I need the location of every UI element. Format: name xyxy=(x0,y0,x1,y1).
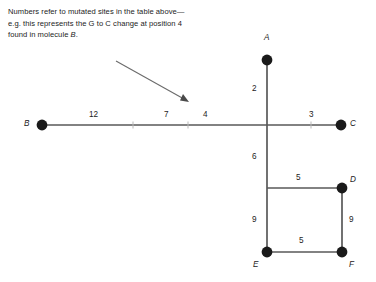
edge-label-7: 7 xyxy=(164,110,169,119)
edge-label-6: 6 xyxy=(252,152,257,161)
edge-label-5-bottom: 5 xyxy=(299,236,304,245)
node-D xyxy=(337,183,348,194)
edge-label-4: 4 xyxy=(203,110,208,119)
network-diagram xyxy=(0,0,376,282)
diagram-nodes xyxy=(37,55,348,258)
node-B xyxy=(37,120,48,131)
edge-label-5-top: 5 xyxy=(296,173,301,182)
arrow-head xyxy=(180,94,189,102)
edge-label-9-left: 9 xyxy=(252,215,257,224)
node-label-D: D xyxy=(350,175,356,184)
caption-pointer-arrow xyxy=(116,61,189,102)
node-label-C: C xyxy=(350,119,356,128)
node-label-F: F xyxy=(349,260,354,269)
node-label-B: B xyxy=(24,119,29,128)
node-C xyxy=(336,120,347,131)
edge-label-9-right: 9 xyxy=(349,215,354,224)
edge-label-2: 2 xyxy=(252,84,257,93)
node-F xyxy=(337,247,348,258)
edge-label-12: 12 xyxy=(89,110,98,119)
node-label-E: E xyxy=(253,260,258,269)
node-A xyxy=(262,55,273,66)
edge-label-3: 3 xyxy=(309,110,314,119)
diagram-edges xyxy=(42,60,342,252)
arrow-shaft xyxy=(116,61,184,99)
node-label-A: A xyxy=(264,33,269,42)
node-E xyxy=(262,247,273,258)
